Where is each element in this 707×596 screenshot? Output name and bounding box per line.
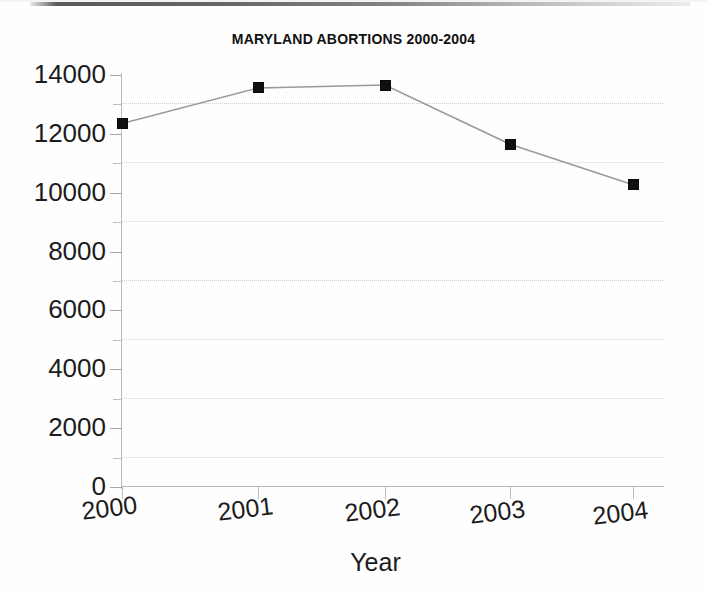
y-axis-tick-minor xyxy=(113,104,122,105)
data-point-marker xyxy=(253,82,264,93)
x-axis-tick-label: 2001 xyxy=(216,491,275,527)
y-axis-tick-minor xyxy=(113,281,122,282)
chart-title: MARYLAND ABORTIONS 2000-2004 xyxy=(0,31,707,47)
y-axis-tick-label: 8000 xyxy=(6,238,106,264)
y-axis-tick-major xyxy=(110,310,122,311)
scan-edge-artifact xyxy=(30,2,690,6)
y-axis-tick-major xyxy=(110,252,122,253)
data-line-svg xyxy=(122,75,682,495)
y-axis-tick-minor xyxy=(113,222,122,223)
y-axis-tick-minor xyxy=(113,340,122,341)
data-point-marker xyxy=(380,80,391,91)
x-axis-tick-label: 2004 xyxy=(591,495,650,531)
data-point-marker xyxy=(117,118,128,129)
y-axis-tick-major xyxy=(110,193,122,194)
y-axis-tick-major xyxy=(110,428,122,429)
y-axis-tick-minor xyxy=(113,163,122,164)
y-axis-tick-label: 2000 xyxy=(6,414,106,440)
x-axis-title-text: Year xyxy=(350,548,401,576)
y-axis-tick-label: 12000 xyxy=(6,120,106,146)
y-axis-tick-label: 6000 xyxy=(6,296,106,322)
x-axis-tick-label: 2002 xyxy=(343,493,402,529)
y-axis-tick-label: 14000 xyxy=(6,61,106,87)
x-axis-tick-label: 2003 xyxy=(468,494,527,530)
y-axis-tick-label: 10000 xyxy=(6,179,106,205)
chart-figure: MARYLAND ABORTIONS 2000-2004 02000400060… xyxy=(0,0,707,596)
y-axis-tick-minor xyxy=(113,399,122,400)
data-point-marker xyxy=(628,179,639,190)
x-axis-tick-label: 2000 xyxy=(80,490,139,526)
y-axis-tick-major xyxy=(110,75,122,76)
y-axis-tick-major xyxy=(110,369,122,370)
y-axis-tick-major xyxy=(110,134,122,135)
data-point-marker xyxy=(505,139,516,150)
y-axis-tick-minor xyxy=(113,458,122,459)
y-axis-tick-major xyxy=(110,487,122,488)
y-axis-tick-label: 4000 xyxy=(6,355,106,381)
x-axis-title: Year xyxy=(0,548,707,577)
